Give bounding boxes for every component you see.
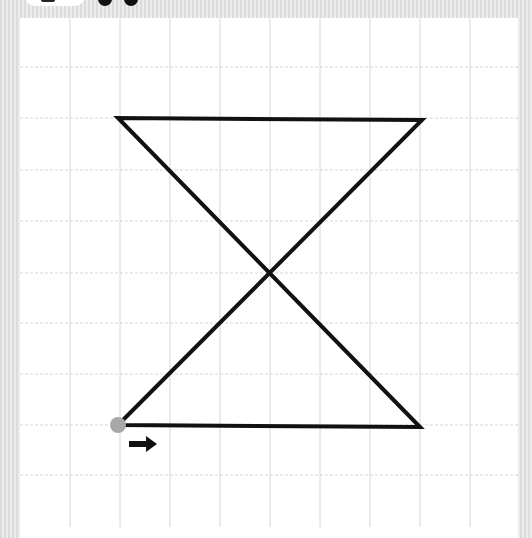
start-point[interactable] xyxy=(110,417,126,433)
arrow-right-icon xyxy=(129,436,157,452)
